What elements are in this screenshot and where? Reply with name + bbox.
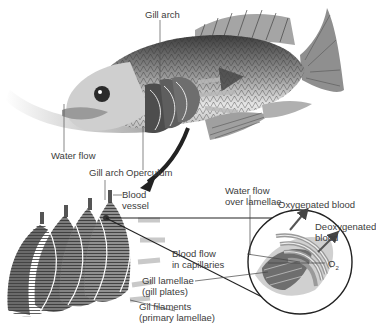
label-operculum: Operculum (126, 167, 172, 178)
label-gill-lamellae-line1: Gill lamellae (142, 275, 194, 286)
label-gill-filaments-line1: Gil filaments (139, 301, 191, 312)
pelvic-fin (262, 101, 312, 118)
label-gill-filaments: Gil filaments (primary lamellae) (139, 301, 215, 323)
label-water-flow: Water flow (51, 150, 96, 161)
label-deoxygenated-line1: Deoxygenated (315, 221, 376, 232)
label-oxygenated-blood: Oxygenated blood (278, 199, 355, 210)
label-gill-arch-top: Gill arch (145, 9, 180, 20)
label-blood-flow-line2: in capillaries (172, 259, 224, 270)
label-o2: O2 (328, 258, 339, 274)
label-gill-filaments-line2: (primary lamellae) (139, 312, 215, 323)
exposed-gills (145, 77, 200, 133)
fish-tail (300, 8, 344, 92)
label-deoxygenated-line2: blood (315, 232, 338, 243)
label-gill-lamellae: Gill lamellae (gill plates) (142, 275, 194, 297)
label-blood-flow-capillaries: Blood flow in capillaries (172, 248, 224, 270)
label-o2-sub: 2 (335, 265, 338, 271)
label-blood-vessel-line2: vessel (122, 200, 149, 211)
label-gill-lamellae-line2: (gill plates) (142, 286, 188, 297)
label-deoxygenated-blood: Deoxygenated blood (315, 221, 376, 243)
label-water-flow-lamellae-line2: over lamellae (225, 196, 282, 207)
label-blood-vessel-line1: Blood (122, 189, 146, 200)
label-gill-arch-bottom: Gill arch (89, 167, 124, 178)
label-water-flow-lamellae: Water flow over lamellae (225, 185, 282, 207)
label-water-flow-lamellae-line1: Water flow (225, 185, 270, 196)
gill-arch-detail (8, 190, 131, 316)
label-blood-flow-line1: Blood flow (172, 248, 216, 259)
fish-eye (94, 86, 110, 102)
label-blood-vessel: Blood vessel (122, 189, 149, 211)
